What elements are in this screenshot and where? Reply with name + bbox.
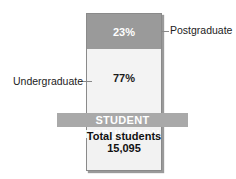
undergraduate-label: Undergraduate [13, 75, 83, 87]
postgraduate-label: Postgraduate [170, 24, 232, 36]
total-students-value: 15,095 [86, 142, 162, 154]
postgraduate-leader-line [161, 31, 169, 32]
chart-title-banner: STUDENT POPULATION [57, 113, 188, 127]
total-students-label: Total students [86, 130, 162, 142]
postgraduate-segment: 23% [87, 14, 161, 49]
postgraduate-percent: 23% [113, 26, 135, 38]
undergraduate-percent: 77% [87, 72, 161, 84]
